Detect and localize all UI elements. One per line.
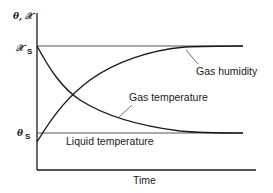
x-axis-label: Time: [133, 174, 156, 186]
liquid-temperature-label: Liquid temperature: [66, 135, 154, 147]
humidity-saturation-symbol: 𝒳: [15, 43, 27, 53]
gas-humidity-label: Gas humidity: [196, 65, 258, 77]
gas-temperature-curve: [37, 46, 243, 133]
diagram-canvas: θ, 𝒳 𝒳 S θ S Gas humidity Gas temperatur…: [0, 0, 273, 193]
temperature-saturation-symbol: θ: [17, 128, 23, 138]
y-axis-label: θ, 𝒳: [13, 11, 36, 22]
temperature-saturation-subscript: S: [25, 132, 31, 141]
humidity-saturation-subscript: S: [27, 47, 33, 56]
gas-temperature-leader: [118, 105, 132, 118]
gas-humidity-leader: [186, 50, 198, 64]
gas-temperature-label: Gas temperature: [129, 91, 208, 103]
